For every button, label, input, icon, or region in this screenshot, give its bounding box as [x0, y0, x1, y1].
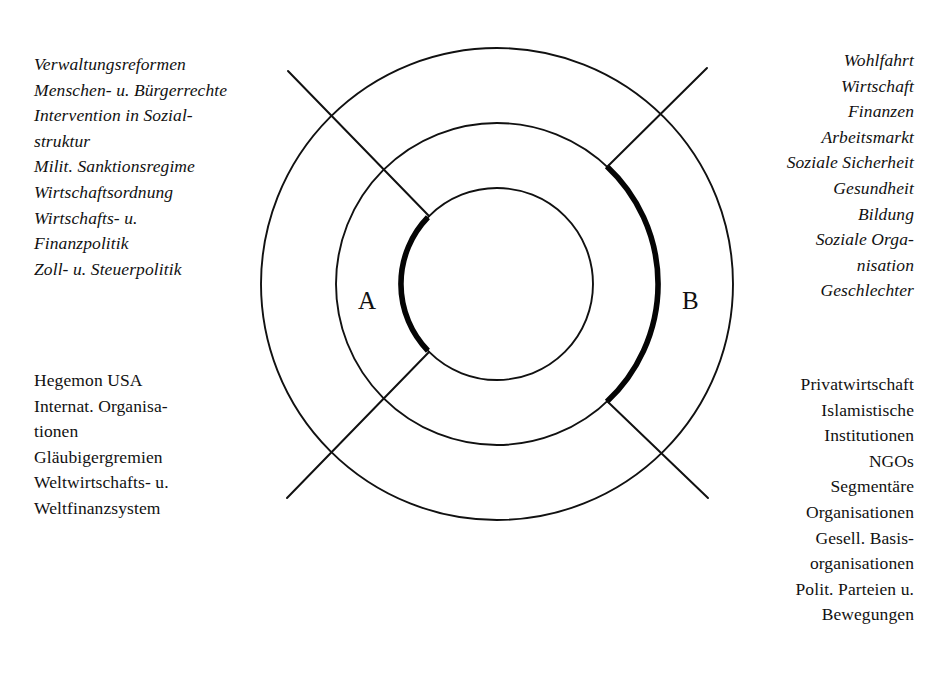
- inner-ring: [401, 188, 593, 380]
- text-line: Gesell. Basis-: [634, 526, 914, 552]
- text-line: Menschen- u. Bürgerrechte: [34, 78, 309, 104]
- text-line: nisation: [634, 253, 914, 279]
- text-line: Soziale Orga-: [634, 227, 914, 253]
- text-line: Islamistische: [634, 398, 914, 424]
- text-line: Verwaltungsreformen: [34, 52, 309, 78]
- text-line: Internat. Organisa-: [34, 394, 309, 420]
- text-line: tionen: [34, 419, 309, 445]
- text-line: Weltfinanzsystem: [34, 496, 309, 522]
- text-line: struktur: [34, 129, 309, 155]
- text-line: Gesundheit: [634, 176, 914, 202]
- text-line: Wirtschaft: [634, 74, 914, 100]
- zone-label-a: A: [358, 288, 376, 313]
- text-line: organisationen: [634, 551, 914, 577]
- middle-ring: [336, 123, 658, 445]
- text-line: Privatwirtschaft: [634, 372, 914, 398]
- text-block-bottom-right: PrivatwirtschaftIslamistischeInstitution…: [634, 372, 914, 628]
- text-line: Bewegungen: [634, 602, 914, 628]
- text-line: Organisationen: [634, 500, 914, 526]
- text-line: Intervention in Sozial-: [34, 103, 309, 129]
- divider-line-upper-left: [288, 71, 429, 216]
- diagram-canvas: A B VerwaltungsreformenMenschen- u. Bürg…: [0, 0, 942, 680]
- text-line: NGOs: [634, 449, 914, 475]
- text-line: Institutionen: [634, 423, 914, 449]
- text-line: Wohlfahrt: [634, 48, 914, 74]
- text-line: Bildung: [634, 202, 914, 228]
- text-block-top-right: WohlfahrtWirtschaftFinanzenArbeitsmarktS…: [634, 48, 914, 304]
- text-line: Weltwirtschafts- u.: [34, 470, 309, 496]
- text-block-bottom-left: Hegemon USAInternat. Organisa-tionenGläu…: [34, 368, 309, 522]
- text-line: Soziale Sicherheit: [634, 150, 914, 176]
- text-line: Arbeitsmarkt: [634, 125, 914, 151]
- text-line: Milit. Sanktionsregime: [34, 154, 309, 180]
- text-line: Polit. Parteien u.: [634, 577, 914, 603]
- text-line: Hegemon USA: [34, 368, 309, 394]
- text-block-top-left: VerwaltungsreformenMenschen- u. Bürgerre…: [34, 52, 309, 282]
- text-line: Segmentäre: [634, 474, 914, 500]
- inner-ring-highlight-arc: [401, 217, 428, 350]
- text-line: Finanzpolitik: [34, 231, 309, 257]
- text-line: Finanzen: [634, 99, 914, 125]
- text-line: Gläubigergremien: [34, 445, 309, 471]
- text-line: Zoll- u. Steuerpolitik: [34, 257, 309, 283]
- text-line: Geschlechter: [634, 278, 914, 304]
- text-line: Wirtschaftsordnung: [34, 180, 309, 206]
- text-line: Wirtschafts- u.: [34, 206, 309, 232]
